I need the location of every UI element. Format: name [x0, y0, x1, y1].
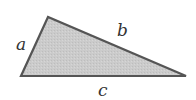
- side-c-label: c: [98, 80, 108, 100]
- side-b-label: b: [117, 20, 128, 40]
- triangle-shape: [21, 17, 186, 76]
- triangle-diagram: a b c: [0, 0, 196, 100]
- side-a-label: a: [16, 34, 26, 54]
